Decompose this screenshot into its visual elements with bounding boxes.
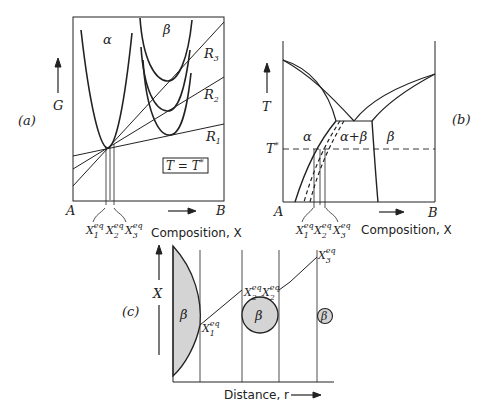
x2eq-label: Xeq2 — [105, 221, 124, 240]
a-left-label: A — [65, 203, 75, 218]
region-beta: β — [386, 129, 395, 144]
beta-left: β — [179, 307, 188, 322]
b-composition-label: Composition, X — [361, 223, 452, 237]
tstar-label: T* — [266, 141, 279, 156]
t-axis-label: T — [262, 99, 272, 114]
b-right-label: B — [427, 205, 438, 220]
g-axis-label: G — [53, 98, 63, 113]
phase-diagram-figure: (a) G α β R3 R2 R1 T = T* A B Xeq1 Xeq2 … — [0, 0, 484, 417]
x1eq-label: Xeq1 — [85, 221, 104, 240]
panel-a — [55, 17, 224, 222]
a-composition-label: Composition, X — [151, 226, 242, 240]
region-alpha-beta: α+β — [340, 129, 367, 144]
beta-label: β — [162, 22, 171, 37]
b-x1eq-label: Xeq1 — [295, 221, 314, 240]
alpha-label: α — [103, 32, 112, 47]
r3-label: R3 — [203, 46, 219, 63]
distance-label: Distance, r — [224, 388, 289, 402]
panel-b-label: (b) — [452, 112, 470, 127]
t-equals-tstar: T = T* — [166, 158, 204, 173]
panel-a-label: (a) — [18, 113, 36, 128]
r1-label: R1 — [205, 129, 221, 146]
region-alpha: α — [303, 129, 312, 144]
a-right-label: B — [215, 203, 226, 218]
c-x3eq: Xeq3 — [317, 246, 336, 265]
r2-label: R2 — [203, 87, 219, 104]
b-left-label: A — [273, 204, 283, 219]
b-x2eq-label: Xeq2 — [313, 221, 332, 240]
beta-middle: β — [254, 308, 263, 323]
beta-right: β — [320, 310, 327, 323]
c-x1eq: Xeq1 — [201, 319, 220, 338]
panel-c-label: (c) — [122, 304, 139, 319]
x-axis-c-label: X — [152, 286, 163, 301]
x3eq-label: Xeq3 — [124, 221, 143, 240]
b-x3eq-label: Xeq3 — [332, 221, 351, 240]
